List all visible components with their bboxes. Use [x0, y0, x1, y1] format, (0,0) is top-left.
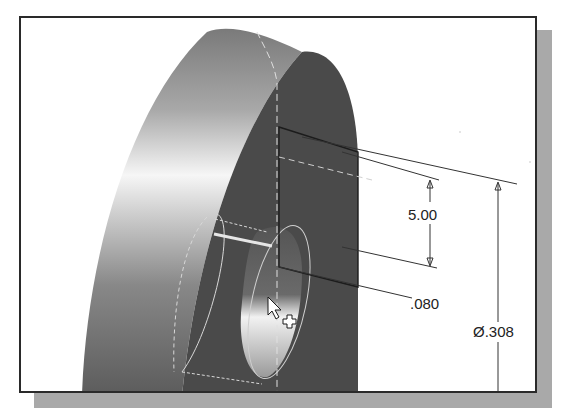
model-viewport-frame[interactable]: 5.00 .080 Ø.308 [19, 16, 537, 393]
artifact [529, 161, 531, 163]
artifact [459, 131, 461, 133]
dim-label-height[interactable]: 5.00 [408, 206, 437, 223]
dim-label-diameter[interactable]: Ø.308 [473, 323, 514, 340]
dim-label-depth[interactable]: .080 [410, 295, 439, 312]
model-viewport[interactable]: 5.00 .080 Ø.308 [21, 18, 535, 391]
